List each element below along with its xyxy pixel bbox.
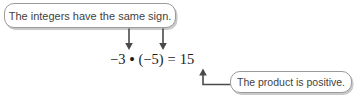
same-sign-callout-label: The integers have the same sign. [9,10,172,22]
equation-multiplication-dot: • [129,51,134,67]
equation-factor2: (−5) [139,51,164,67]
equation-factor1: −3 [110,51,125,67]
same-sign-callout: The integers have the same sign. [4,3,176,28]
down-arrowhead-icon-factor2 [159,43,167,50]
up-arrowhead-icon-product [199,69,207,76]
positive-product-callout: The product is positive. [230,71,352,93]
integer-multiplication-diagram: The integers have the same sign. −3•(−5)… [0,0,356,97]
down-arrowhead-icon-factor1 [125,43,133,50]
equation: −3•(−5)=15 [110,51,194,67]
equation-equals-sign: = [168,51,176,67]
up-arrow-connector-icon-product [203,74,231,85]
equation-product: 15 [180,51,195,67]
positive-product-callout-label: The product is positive. [237,76,345,88]
